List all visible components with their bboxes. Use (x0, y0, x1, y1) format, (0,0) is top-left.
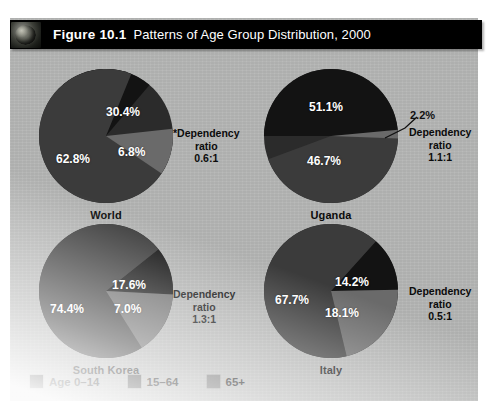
figure-header: Figure 10.1 Patterns of Age Group Distri… (10, 20, 482, 49)
dependency-ratio-value: 0.5:1 (409, 310, 471, 323)
legend-label-age-65-plus: 65+ (226, 376, 246, 388)
slice-value-age-15-64: 46.7% (307, 154, 341, 168)
dependency-ratio-uganda: Dependency ratio 1.1:1 (409, 126, 471, 164)
dependency-ratio-value: 0.6:1 (173, 152, 240, 165)
slice-value-age-65-plus: 2.2% (410, 109, 435, 121)
pie-title-uganda: Uganda (261, 209, 401, 221)
pie-graphic-italy (263, 223, 399, 359)
pie-title-italy: Italy (261, 364, 401, 376)
dependency-ratio-south-korea: Dependency ratio 1.3:1 (173, 288, 235, 326)
pie-svg-south-korea (38, 223, 174, 359)
dependency-ratio-word: ratio (409, 298, 471, 311)
legend-swatch-age-15-64 (128, 375, 141, 388)
slice-value-age-0-14: 17.6% (112, 278, 146, 292)
figure-number: Figure 10.1 (53, 27, 126, 42)
slice-value-age-15-64: 62.8% (56, 152, 90, 166)
dependency-ratio-title: Dependency (173, 288, 235, 301)
dependency-ratio-title: Dependency (409, 285, 471, 298)
pie-chart-uganda: 51.1% 46.7% 2.2% Dependency ratio 1.1:1 … (263, 68, 473, 228)
legend-swatch-age-65-plus (207, 375, 220, 388)
slice-value-age-0-14: 14.2% (335, 275, 369, 289)
dependency-ratio-value: 1.1:1 (409, 151, 471, 164)
legend-item-age-0-14: Age 0–14 (30, 375, 100, 388)
dependency-ratio-title: *Dependency (173, 127, 240, 140)
pie-chart-world: 30.4% 62.8% 6.8% *Dependency ratio 0.6:1… (38, 68, 238, 228)
pie-chart-italy: 14.2% 67.7% 18.1% Dependency ratio 0.5:1… (263, 223, 473, 383)
globe-icon (11, 22, 41, 48)
dependency-ratio-italy: Dependency ratio 0.5:1 (409, 285, 471, 323)
slice-value-age-0-14: 30.4% (106, 105, 140, 119)
dependency-ratio-word: ratio (173, 140, 240, 153)
legend-swatch-age-0-14 (30, 375, 43, 388)
dependency-ratio-word: ratio (173, 301, 235, 314)
pie-svg-italy (263, 223, 399, 359)
slice-value-age-15-64: 67.7% (275, 293, 309, 307)
figure-panel: Figure 10.1 Patterns of Age Group Distri… (10, 18, 478, 401)
dependency-ratio-title: Dependency (409, 126, 471, 139)
slice-value-age-65-plus: 7.0% (114, 302, 141, 316)
dependency-ratio-value: 1.3:1 (173, 313, 235, 326)
pie-svg-world (38, 68, 174, 204)
legend-item-age-65-plus: 65+ (207, 375, 246, 388)
pie-svg-uganda (263, 68, 399, 204)
pie-title-world: World (36, 209, 176, 221)
legend-item-age-15-64: 15–64 (128, 375, 179, 388)
pie-graphic-uganda (263, 68, 399, 204)
pie-graphic-south-korea (38, 223, 174, 359)
slice-value-age-15-64: 74.4% (50, 302, 84, 316)
pie-chart-south-korea: 17.6% 74.4% 7.0% Dependency ratio 1.3:1 … (38, 223, 238, 383)
figure-title: Patterns of Age Group Distribution, 2000 (133, 27, 370, 42)
slice-value-age-0-14: 51.1% (309, 100, 343, 114)
legend: Age 0–14 15–64 65+ (30, 375, 273, 388)
dependency-ratio-word: ratio (409, 139, 471, 152)
slice-value-age-65-plus: 18.1% (325, 306, 359, 320)
legend-label-age-0-14: Age 0–14 (49, 376, 100, 388)
pie-graphic-world (38, 68, 174, 204)
dependency-ratio-world: *Dependency ratio 0.6:1 (173, 127, 240, 165)
slice-value-age-65-plus: 6.8% (118, 145, 145, 159)
legend-label-age-15-64: 15–64 (147, 376, 179, 388)
